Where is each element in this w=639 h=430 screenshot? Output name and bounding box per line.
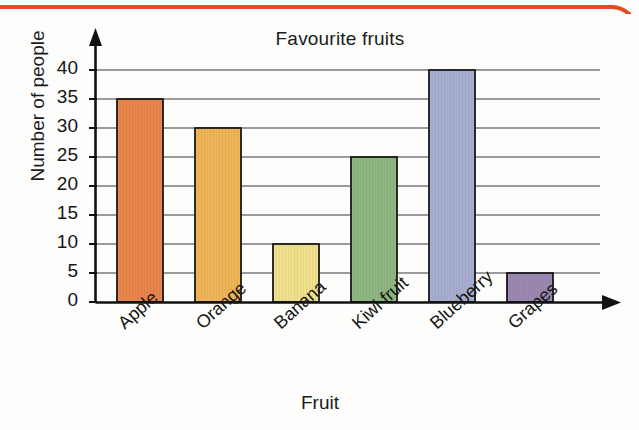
chart-canvas xyxy=(0,0,639,430)
bar-orange[interactable] xyxy=(195,128,241,302)
y-tick-label: 40 xyxy=(32,57,78,79)
page-root: Favourite fruits Number of people Fruit … xyxy=(0,0,639,430)
y-tick-label: 20 xyxy=(32,173,78,195)
y-tick-label: 25 xyxy=(32,144,78,166)
y-tick-label: 35 xyxy=(32,86,78,108)
gridlines xyxy=(96,70,601,273)
bar-apple[interactable] xyxy=(117,99,163,302)
y-tick-label: 15 xyxy=(32,202,78,224)
arrow-right-icon xyxy=(602,295,621,310)
y-tick-label: 5 xyxy=(32,260,78,282)
y-tick-label: 30 xyxy=(32,115,78,137)
bar-blueberry[interactable] xyxy=(429,70,475,302)
arrow-up-icon xyxy=(89,28,102,46)
y-tick-label: 10 xyxy=(32,231,78,253)
x-axis-title: Fruit xyxy=(230,392,410,414)
chart-title: Favourite fruits xyxy=(210,28,470,50)
bar-chart: Favourite fruits Number of people Fruit … xyxy=(0,0,639,430)
y-tick-label: 0 xyxy=(32,289,78,311)
